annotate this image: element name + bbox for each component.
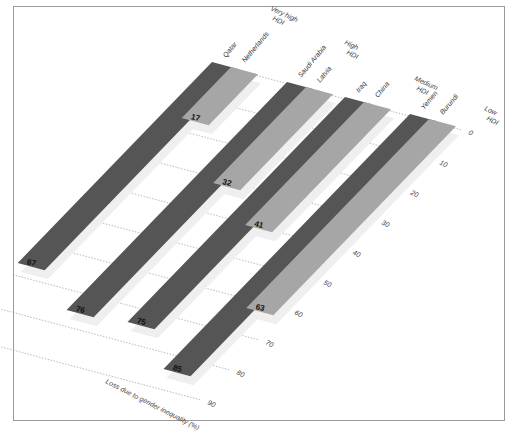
axis-title: Loss due to gender inequality (%)	[104, 378, 201, 432]
tick-label: 90	[207, 399, 217, 409]
country-label: China	[373, 80, 390, 99]
tick-label: 40	[352, 249, 362, 259]
country-label: Qatar	[221, 40, 239, 59]
tick-label: 20	[409, 188, 420, 198]
tick-label: 60	[294, 309, 304, 319]
country-label: Iraq	[354, 80, 368, 94]
group-label: HDI	[346, 49, 360, 60]
isometric-bar-chart: 6717763275418563 QatarNetherlandsSaudi A…	[0, 0, 511, 432]
tick-label: 50	[323, 279, 333, 289]
tick-label: 10	[439, 159, 449, 169]
group-label: HDI	[486, 115, 500, 126]
country-label: Latvia	[315, 65, 332, 84]
tick-label: 30	[381, 219, 391, 229]
country-label: Netherlands	[240, 30, 270, 64]
tick-label: 80	[236, 369, 246, 379]
tick-label: 70	[265, 339, 275, 349]
country-label: Burundi	[438, 92, 459, 115]
tick-label: 0	[468, 129, 475, 137]
